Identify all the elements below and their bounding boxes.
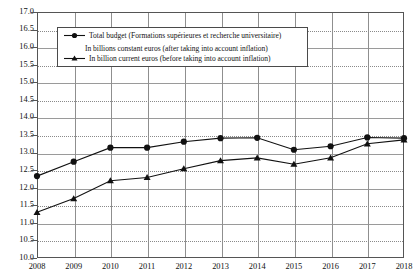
x-tick-label-2017: 2017 (359, 262, 376, 271)
x-tick-label-2014: 2014 (249, 262, 266, 271)
y-tick-mark (31, 65, 37, 66)
x-tick-label-2008: 2008 (29, 262, 46, 271)
x-tick-label-2012: 2012 (175, 262, 192, 271)
chart-container: 10.010.511.011.512.012.513.013.514.014.5… (0, 0, 413, 278)
legend-label-total-budget-line2: In billions constant euros (after taking… (85, 44, 268, 53)
legend-label-current-euros: In billion current euros (before taking … (89, 54, 271, 63)
data-point-circle-2016 (328, 143, 334, 149)
x-tick-label-2010: 2010 (102, 262, 119, 271)
triangle-marker-icon (64, 54, 85, 63)
x-tick-label-2018: 2018 (396, 262, 413, 271)
y-tick-mark (31, 30, 37, 31)
x-tick-label-2015: 2015 (286, 262, 303, 271)
circle-marker-icon (64, 31, 85, 40)
data-point-circle-2010 (107, 145, 113, 151)
y-tick-mark (31, 135, 37, 136)
y-tick-mark (31, 82, 37, 83)
data-point-circle-2011 (144, 145, 150, 151)
y-tick-mark (31, 205, 37, 206)
y-tick-mark (31, 223, 37, 224)
legend-label-total-budget-line1: Total budget (Formations supérieures et … (89, 31, 281, 40)
x-tick-label-2009: 2009 (65, 262, 82, 271)
x-tick-label-2016: 2016 (322, 262, 339, 271)
legend-entry-current-euros: In billion current euros (before taking … (64, 54, 271, 63)
x-tick-label-2013: 2013 (212, 262, 229, 271)
data-point-circle-2015 (291, 147, 297, 153)
y-tick-mark (31, 12, 37, 13)
data-point-triangle-2014 (254, 154, 261, 160)
y-tick-mark (31, 47, 37, 48)
data-point-circle-2017 (364, 134, 370, 140)
y-tick-mark (31, 170, 37, 171)
data-point-triangle-2009 (70, 195, 77, 201)
x-axis-labels: 2008200920102011201220132014201520162017… (0, 262, 413, 278)
data-point-circle-2008 (34, 173, 40, 179)
data-point-circle-2014 (254, 135, 260, 141)
series-line-triangle (37, 140, 404, 212)
data-point-circle-2009 (71, 159, 77, 165)
x-tick-label-2011: 2011 (139, 262, 155, 271)
y-tick-mark (31, 117, 37, 118)
y-tick-mark (31, 258, 37, 259)
y-tick-mark (31, 188, 37, 189)
series-line-circle (37, 137, 404, 176)
y-tick-mark (31, 100, 37, 101)
y-tick-mark (31, 240, 37, 241)
data-point-circle-2013 (217, 135, 223, 141)
legend-entry-total-budget: Total budget (Formations supérieures et … (64, 31, 281, 40)
y-tick-mark (31, 153, 37, 154)
data-point-circle-2012 (181, 139, 187, 145)
legend: Total budget (Formations supérieures et … (57, 27, 308, 67)
